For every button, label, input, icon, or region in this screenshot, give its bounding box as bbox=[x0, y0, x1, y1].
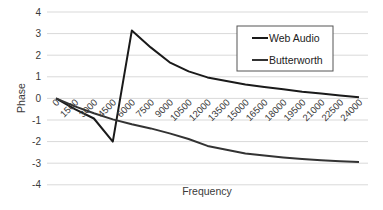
legend: Web Audio Butterworth bbox=[237, 26, 333, 71]
y-tick-label: 1 bbox=[35, 71, 41, 82]
x-tick-label: 7500 bbox=[133, 97, 156, 120]
y-axis-title: Phase bbox=[15, 83, 27, 113]
x-tick-label: 24000 bbox=[338, 97, 364, 123]
y-tick-label: 2 bbox=[35, 50, 41, 61]
y-tick-label: -2 bbox=[32, 136, 41, 147]
y-axis-ticks: 43210-1-2-3-4 bbox=[32, 7, 41, 191]
legend-label-butterworth: Butterworth bbox=[269, 54, 323, 66]
x-axis-ticks: 0150030004500600075009000105001200013500… bbox=[50, 97, 365, 123]
y-tick-label: 3 bbox=[35, 28, 41, 39]
y-tick-label: 0 bbox=[35, 93, 41, 104]
x-tick-label: 4500 bbox=[95, 97, 118, 120]
x-tick-label: 6000 bbox=[114, 97, 137, 120]
x-axis-title: Frequency bbox=[182, 185, 232, 197]
legend-label-web-audio: Web Audio bbox=[269, 32, 320, 44]
y-tick-label: 4 bbox=[35, 7, 41, 18]
y-tick-label: -3 bbox=[32, 158, 41, 169]
y-tick-label: -1 bbox=[32, 115, 41, 126]
phase-line-chart: 43210-1-2-3-4 01500300045006000750090001… bbox=[0, 0, 383, 210]
y-tick-label: -4 bbox=[32, 179, 41, 190]
